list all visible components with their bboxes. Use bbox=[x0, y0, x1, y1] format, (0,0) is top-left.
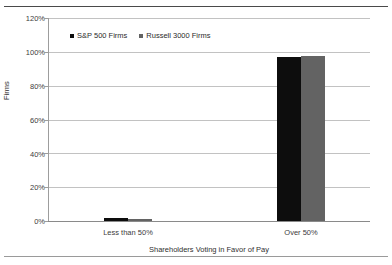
bar-less-than-50-russell3000 bbox=[128, 219, 152, 221]
bar-over-50-sp500 bbox=[277, 57, 301, 221]
page-rule-top bbox=[4, 6, 388, 7]
legend-label-sp500: S&P 500 Firms bbox=[77, 31, 127, 40]
y-axis-line bbox=[48, 18, 49, 221]
x-tick-label-less-than-50: Less than 50% bbox=[68, 228, 188, 237]
legend-entry-sp500: S&P 500 Firms bbox=[70, 31, 127, 40]
bar-less-than-50-sp500 bbox=[104, 218, 128, 221]
page-rule-bottom bbox=[4, 256, 388, 257]
legend-entry-russell3000: Russell 3000 Firms bbox=[139, 31, 210, 40]
bar-over-50-russell3000 bbox=[301, 56, 325, 221]
y-tick-label-0: 0% bbox=[5, 218, 45, 226]
chart-figure: Firms 120% 100% 80% 60% 40% 20% 0% Less … bbox=[0, 0, 392, 265]
chart-legend: S&P 500 Firms Russell 3000 Firms bbox=[70, 31, 210, 40]
y-tick-label-40: 40% bbox=[5, 151, 45, 159]
y-tick-label-80: 80% bbox=[5, 83, 45, 91]
plot-area bbox=[48, 18, 370, 221]
legend-label-russell3000: Russell 3000 Firms bbox=[146, 31, 210, 40]
y-tick-label-60: 60% bbox=[5, 117, 45, 125]
x-axis-title: Shareholders Voting in Favor of Pay bbox=[48, 245, 370, 254]
x-tick-label-over-50: Over 50% bbox=[241, 228, 361, 237]
y-tick-label-20: 20% bbox=[5, 184, 45, 192]
gridline-100 bbox=[48, 52, 370, 53]
y-tick-label-120: 120% bbox=[5, 15, 45, 23]
y-tick-label-100: 100% bbox=[5, 49, 45, 57]
legend-swatch-sp500-icon bbox=[70, 34, 74, 38]
x-axis-line bbox=[48, 221, 370, 222]
gridline-120 bbox=[48, 18, 370, 19]
legend-swatch-russell3000-icon bbox=[139, 34, 143, 38]
